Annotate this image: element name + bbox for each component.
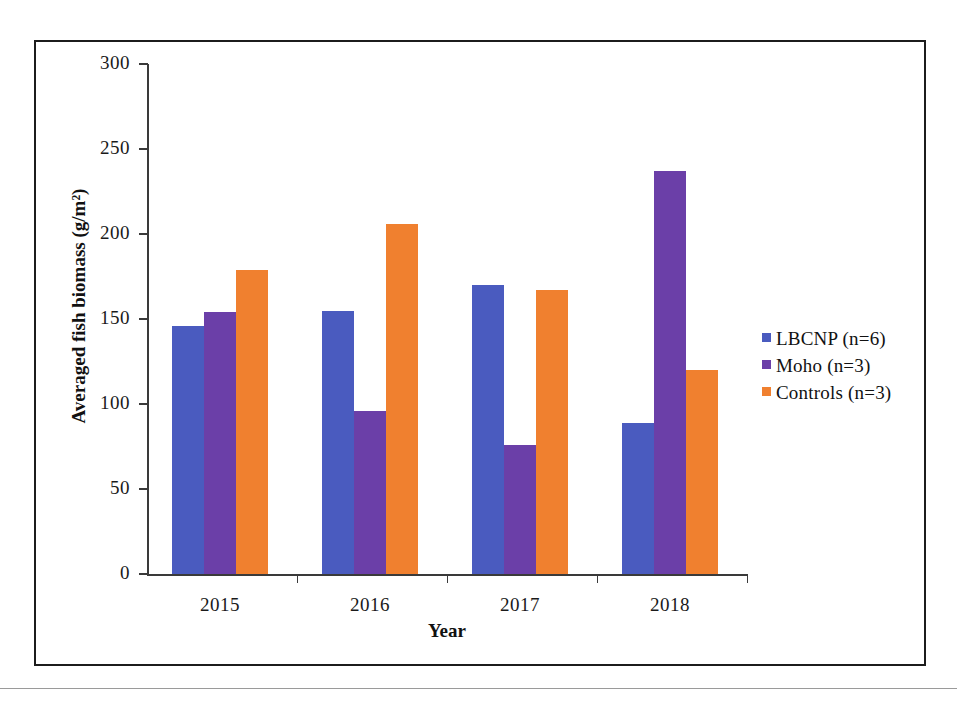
bar-2016-lbcnp	[322, 311, 354, 575]
bar-2016-controls	[386, 224, 418, 574]
page-separator-rule	[0, 688, 957, 689]
bar-2017-controls	[536, 290, 568, 574]
chart-legend: LBCNP (n=6)Moho (n=3)Controls (n=3)	[762, 325, 922, 406]
bar-2016-moho	[354, 411, 386, 574]
legend-label: Moho (n=3)	[776, 355, 871, 377]
bar-2017-lbcnp	[472, 285, 504, 574]
legend-item[interactable]: Moho (n=3)	[762, 352, 922, 379]
bar-2017-moho	[504, 445, 536, 574]
figure-frame: 050100150200250300 2015201620172018 Aver…	[34, 40, 926, 666]
legend-item[interactable]: Controls (n=3)	[762, 379, 922, 406]
legend-label: Controls (n=3)	[776, 382, 891, 404]
legend-swatch-icon	[762, 360, 771, 369]
bar-2015-moho	[204, 312, 236, 574]
legend-swatch-icon	[762, 387, 771, 396]
bar-2018-controls	[686, 370, 718, 574]
bar-2018-lbcnp	[622, 423, 654, 574]
bar-2015-controls	[236, 270, 268, 574]
bar-2015-lbcnp	[172, 326, 204, 574]
plot-area: 050100150200250300 2015201620172018 Aver…	[36, 42, 928, 668]
legend-item[interactable]: LBCNP (n=6)	[762, 325, 922, 352]
bar-2018-moho	[654, 171, 686, 574]
legend-swatch-icon	[762, 333, 771, 342]
legend-label: LBCNP (n=6)	[776, 328, 886, 350]
